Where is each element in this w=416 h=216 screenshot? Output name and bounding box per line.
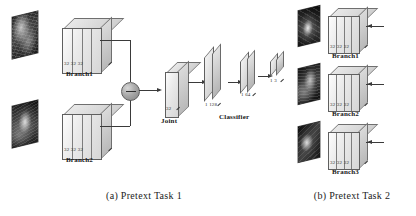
classifier-layer-1: [204, 58, 240, 102]
classifier-layer-3-dims: 1 3: [270, 78, 277, 83]
task2-branch3-output-arrowhead: [367, 140, 372, 144]
merge-to-joint-arrowhead: [157, 88, 162, 92]
task2-branch3-conv-block: [328, 124, 366, 160]
task2-branch3-dims-label: 32 32 32: [330, 160, 349, 165]
branch1-dims-label: 32 32 32: [64, 61, 83, 66]
task2-branch1-conv-block: [328, 8, 366, 44]
classifier-layer-2-dims: 1 64: [241, 92, 251, 97]
caption-pretext-task-1: (a) Pretext Task 1: [0, 190, 288, 201]
input-image-texture: [298, 63, 320, 104]
branch2-input-image: [12, 100, 38, 148]
block-front-face: [62, 114, 102, 160]
caption-pretext-task-2: (b) Pretext Task 2: [288, 190, 416, 201]
block-front-face: [62, 28, 102, 74]
classifier-label: Classifier: [219, 113, 249, 121]
task2-branch1-output-arrowhead: [367, 24, 372, 28]
joint-name-label: Joint: [161, 117, 177, 125]
merge-to-joint-arrow-line: [139, 90, 159, 91]
task2-branch2-output-arrowhead: [367, 82, 372, 86]
task2-branch2-name-label: Branch2: [332, 110, 359, 118]
panel-pretext-task-2: 32 32 32 Branch1 32 32 32 Branch2: [288, 0, 416, 182]
task2-branch1-dims-label: 32 32 32: [330, 44, 349, 49]
minus-glyph: [126, 91, 136, 92]
branch1-connector-horizontal: [100, 40, 130, 41]
block-front-face: [165, 72, 179, 118]
task2-branch1-input-image: [298, 5, 320, 46]
joint-dims-label: 32: [166, 106, 171, 111]
task2-branch3-input-image: [298, 121, 320, 162]
branch2-name-label: Branch2: [66, 156, 93, 164]
panel-pretext-task-1: 32 32 32 Branch1 32 32 32 Branch2: [0, 0, 288, 182]
task2-branch3-name-label: Branch3: [332, 168, 359, 176]
joint-block: [165, 62, 187, 106]
branch1-input-image: [12, 11, 38, 59]
figure-architecture-diagram: 32 32 32 Branch1 32 32 32 Branch2: [0, 0, 416, 216]
merge-connector-vertical-lower: [130, 99, 131, 126]
branch1-name-label: Branch1: [66, 70, 93, 78]
classifier-layer-1-dims: 1 128: [205, 102, 217, 107]
input-image-texture: [298, 5, 320, 46]
input-image-texture: [12, 11, 38, 59]
subtract-node-icon: [121, 82, 140, 101]
task2-branch2-input-image: [298, 63, 320, 104]
input-image-texture: [298, 121, 320, 162]
task2-branch1-name-label: Branch1: [332, 52, 359, 60]
merge-connector-vertical: [130, 40, 131, 82]
branch2-connector-horizontal: [100, 126, 130, 127]
branch2-dims-label: 32 32 32: [64, 147, 83, 152]
task2-branch2-dims-label: 32 32 32: [330, 102, 349, 107]
input-image-texture: [12, 100, 38, 148]
task2-branch2-conv-block: [328, 66, 366, 102]
